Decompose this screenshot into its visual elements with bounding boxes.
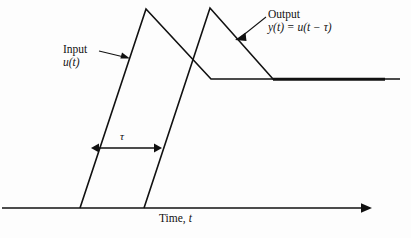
output-annotation-title: Output (268, 8, 332, 21)
input-leader-line (99, 51, 124, 57)
time-delay-waveform-figure: Input u(t) Output y(t) = u(t − τ) τ Time… (0, 0, 411, 238)
output-annotation: Output y(t) = u(t − τ) (268, 8, 332, 34)
time-axis-label: Time, t (159, 212, 192, 225)
output-leader-arrowhead (235, 33, 247, 42)
input-annotation-title: Input (63, 43, 87, 56)
waveform-canvas (0, 0, 411, 238)
input-leader-arrowhead (120, 53, 130, 59)
output-annotation-expression: y(t) = u(t − τ) (268, 21, 332, 34)
time-axis-label-prefix: Time, (159, 212, 189, 224)
time-axis-label-variable: t (189, 212, 192, 224)
input-leader (99, 51, 130, 59)
output-waveform (144, 8, 385, 208)
time-axis-arrowhead (361, 203, 372, 213)
input-annotation: Input u(t) (63, 43, 87, 69)
tau-arrowhead-right (154, 144, 162, 153)
tau-arrowhead-left (91, 144, 99, 153)
tau-symbol-label: τ (120, 130, 124, 142)
input-annotation-expression: u(t) (63, 56, 87, 69)
output-leader (235, 17, 266, 41)
